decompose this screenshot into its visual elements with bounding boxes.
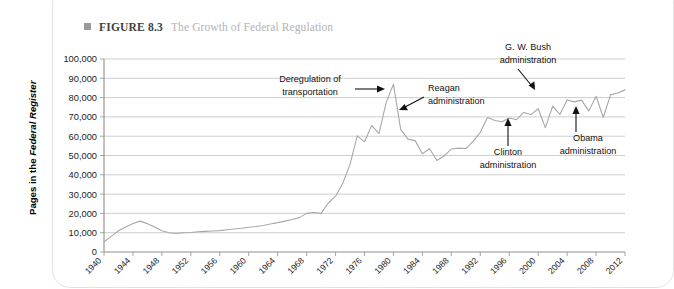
annotation-reagan-line-1: Reagan (428, 83, 460, 93)
svg-text:Pages in the Federal Register: Pages in the Federal Register (27, 79, 38, 215)
annotation-clinton-line-2: administration (480, 160, 537, 170)
annotation-obama-arrowhead (572, 106, 579, 114)
annotation-obama-line-2: administration (560, 146, 617, 156)
y-axis-tick-labels: 010,00020,00030,00040,00050,00060,00070,… (63, 54, 97, 257)
x-axis-tick-label: 1940 (83, 255, 104, 276)
y-axis-tick-label: 10,000 (69, 228, 97, 238)
annotation-gw-bush-line-2: administration (500, 55, 557, 65)
y-axis-title-prefix: Pages in the (27, 156, 38, 215)
y-axis-tick-label: 60,000 (69, 132, 97, 142)
annotation-reagan-leader (405, 97, 424, 107)
y-axis-tick-label: 70,000 (69, 112, 97, 122)
y-axis-title: Pages in the Federal Register (27, 79, 38, 215)
annotation-obama: Obama administration (560, 106, 617, 156)
x-axis-tick-label: 1988 (430, 255, 451, 276)
x-axis-tick-label: 1980 (372, 255, 393, 276)
x-axis-tick-label: 1984 (401, 255, 422, 276)
x-axis-tick-label: 1972 (314, 255, 335, 276)
y-axis-ticks (100, 59, 104, 252)
x-axis-tick-label: 2004 (546, 255, 567, 276)
annotation-clinton-arrowhead (504, 118, 511, 126)
x-axis-tick-labels: 1940194419481952195619601964196819721976… (83, 255, 625, 276)
x-axis-tick-label: 1956 (199, 255, 220, 276)
annotation-reagan: Reagan administration (399, 83, 485, 110)
annotation-deregulation-arrowhead (377, 86, 385, 93)
annotation-deregulation-line-2: transportation (282, 87, 338, 97)
y-axis-tick-label: 80,000 (69, 93, 97, 103)
y-axis-tick-label: 100,000 (63, 54, 97, 64)
annotation-clinton: Clinton administration (480, 118, 537, 170)
x-axis-tick-label: 1952 (170, 255, 191, 276)
annotation-reagan-arrowhead (399, 104, 408, 110)
annotation-gw-bush-line-1: G. W. Bush (505, 42, 551, 52)
x-axis-tick-label: 1944 (112, 255, 133, 276)
x-axis-tick-label: 2008 (575, 255, 596, 276)
x-axis-tick-label: 2000 (517, 255, 538, 276)
annotation-gw-bush-leader (518, 69, 531, 85)
y-axis-tick-label: 40,000 (69, 170, 97, 180)
y-axis-tick-label: 90,000 (69, 74, 97, 84)
gridlines (104, 59, 625, 233)
y-axis-tick-label: 50,000 (69, 151, 97, 161)
y-axis-title-italic: Federal Register (27, 79, 38, 155)
annotation-gw-bush: G. W. Bush administration (500, 42, 557, 90)
x-axis-tick-label: 1964 (256, 255, 277, 276)
x-axis-tick-label: 1948 (141, 255, 162, 276)
data-series-line (104, 84, 625, 242)
x-axis-tick-label: 2012 (604, 255, 625, 276)
x-axis-tick-label: 1960 (228, 255, 249, 276)
x-axis-tick-label: 1976 (343, 255, 364, 276)
x-axis-tick-label: 1992 (459, 255, 480, 276)
x-axis-tick-label: 1968 (285, 255, 306, 276)
annotation-obama-line-1: Obama (573, 133, 604, 143)
annotation-deregulation-line-1: Deregulation of (279, 74, 341, 84)
annotation-deregulation: Deregulation of transportation (279, 74, 385, 97)
x-axis-tick-label: 1996 (488, 255, 509, 276)
y-axis-tick-label: 30,000 (69, 190, 97, 200)
annotation-clinton-line-1: Clinton (494, 147, 522, 157)
y-axis-tick-label: 20,000 (69, 209, 97, 219)
annotation-reagan-line-2: administration (428, 96, 485, 106)
